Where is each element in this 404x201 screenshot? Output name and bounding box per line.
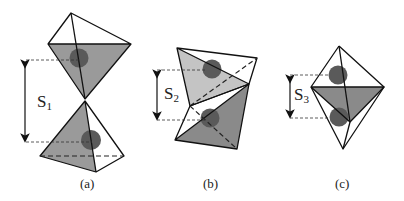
caption-b: (b) (203, 176, 218, 191)
distance-label-s1: S1 (37, 92, 52, 112)
panel-a: S1 (a) (25, 13, 131, 191)
caption-c: (c) (335, 176, 349, 191)
top-shaded-face (48, 44, 131, 99)
panel-c: S3 (c) (290, 46, 384, 191)
ball-bottom (330, 108, 349, 127)
distance-label-s3: S3 (294, 85, 309, 105)
distance-label-s2: S2 (164, 84, 179, 104)
panel-b: S2 (b) (157, 48, 257, 191)
caption-a: (a) (80, 176, 94, 191)
polyhedra-figure: S1 (a) S2 (b) S3 (c) (0, 0, 404, 201)
